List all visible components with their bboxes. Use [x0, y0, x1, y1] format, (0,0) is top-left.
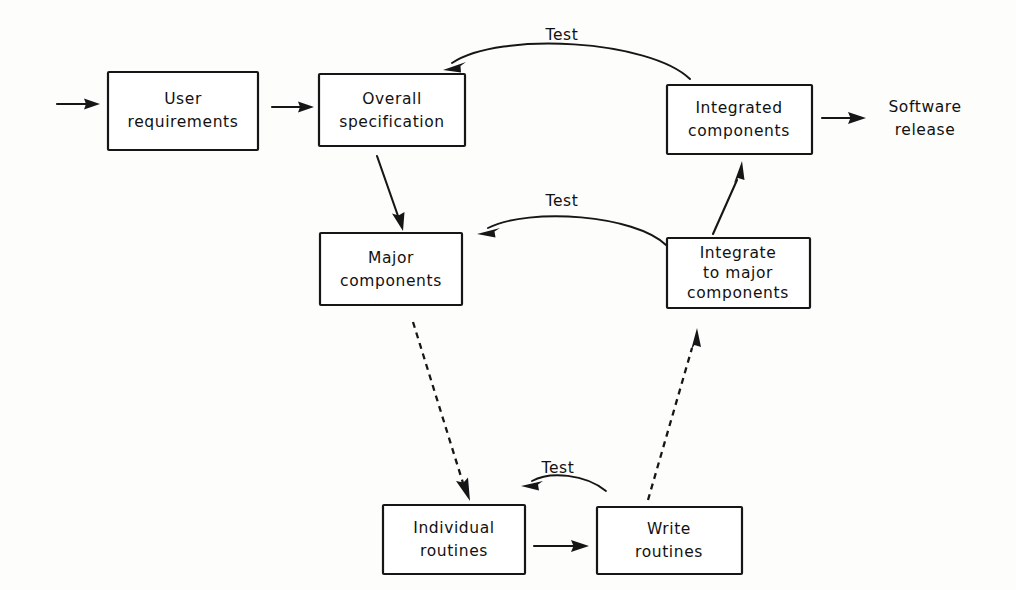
edge-path-test-arc-top: [452, 44, 690, 79]
node-integrated-components[interactable]: Integrated components: [667, 85, 812, 154]
arrowhead-write-routines-to-integrate-to-major-components: [691, 328, 701, 350]
arrowhead-user-requirements-to-overall-specification: [298, 102, 314, 113]
edge-write-routines-to-integrate-to-major-components: [648, 328, 701, 500]
node-label-integrate-to-major-components-line3: components: [687, 284, 789, 302]
node-individual-routines[interactable]: Individual routines: [383, 505, 525, 574]
node-label-major-components-line1: Major: [368, 249, 414, 267]
edge-label-test-top: Test: [545, 26, 579, 44]
edge-individual-routines-to-write-routines: [534, 540, 589, 552]
edge-test-arc-bottom: Test: [521, 459, 606, 491]
edge-integrated-components-to-software-release: [822, 112, 866, 124]
node-overall-specification[interactable]: Overall specification: [319, 74, 465, 146]
edge-path-test-arc-bottom: [532, 475, 606, 491]
node-box-user-requirements[interactable]: [108, 72, 258, 150]
node-label-overall-specification-line2: specification: [339, 113, 445, 131]
edge-label-test-bottom: Test: [541, 459, 575, 477]
arrowhead-test-arc-top: [443, 62, 466, 73]
node-user-requirements[interactable]: User requirements: [108, 72, 258, 150]
arrowhead-test-arc-bottom: [521, 481, 543, 491]
node-box-individual-routines[interactable]: [383, 505, 525, 574]
node-label-integrated-components-line1: Integrated: [695, 99, 782, 117]
arrowhead-integrated-components-to-software-release: [848, 112, 866, 124]
edge-integrate-to-major-components-to-integrated-components: [713, 161, 745, 234]
edge-line-write-routines-to-integrate-to-major-components: [648, 348, 692, 500]
edge-line-major-components-to-individual-routines: [413, 322, 463, 483]
node-label-integrate-to-major-components-line2: to major: [703, 264, 773, 282]
edge-line-overall-specification-to-major-components: [377, 156, 398, 216]
node-label-major-components-line2: components: [340, 272, 442, 290]
node-box-major-components[interactable]: [320, 233, 462, 305]
arrowhead-test-arc-middle: [477, 228, 500, 238]
node-major-components[interactable]: Major components: [320, 233, 462, 305]
node-label-user-requirements-line2: requirements: [128, 113, 239, 131]
arrowhead-integrate-to-major-components-to-integrated-components: [734, 161, 745, 183]
node-box-integrated-components[interactable]: [667, 85, 812, 154]
label-software-release: Software release: [888, 98, 961, 139]
node-label-individual-routines-line1: Individual: [413, 519, 495, 537]
label-software-release-line2: release: [895, 121, 956, 139]
node-label-individual-routines-line2: routines: [420, 542, 488, 560]
node-label-integrated-components-line2: components: [688, 122, 790, 140]
node-label-integrate-to-major-components-line1: Integrate: [700, 244, 777, 262]
node-label-write-routines-line2: routines: [635, 543, 703, 561]
edge-label-test-middle: Test: [545, 192, 579, 210]
edge-test-arc-middle: Test: [477, 192, 666, 245]
arrowhead-individual-routines-to-write-routines: [571, 540, 589, 552]
node-label-write-routines-line1: Write: [647, 520, 691, 538]
edge-overall-specification-to-major-components: [377, 156, 405, 231]
edge-test-arc-top: Test: [443, 26, 690, 79]
node-box-overall-specification[interactable]: [319, 74, 465, 146]
node-write-routines[interactable]: Write routines: [597, 507, 742, 574]
edge-path-test-arc-middle: [488, 216, 666, 245]
edge-input-to-user-requirements: [57, 99, 100, 110]
node-box-write-routines[interactable]: [597, 507, 742, 574]
node-label-overall-specification-line1: Overall: [362, 90, 422, 108]
edge-major-components-to-individual-routines: [413, 322, 470, 501]
flowchart-svg: User requirements Overall specification …: [0, 0, 1016, 590]
label-software-release-line1: Software: [888, 98, 961, 116]
node-label-user-requirements-line1: User: [164, 90, 202, 108]
node-integrate-to-major-components[interactable]: Integrate to major components: [667, 238, 810, 308]
diagram-canvas-root: User requirements Overall specification …: [0, 0, 1016, 590]
edge-line-integrate-to-major-components-to-integrated-components: [713, 180, 737, 234]
edge-user-requirements-to-overall-specification: [272, 102, 314, 113]
arrowhead-input-to-user-requirements: [84, 99, 100, 110]
